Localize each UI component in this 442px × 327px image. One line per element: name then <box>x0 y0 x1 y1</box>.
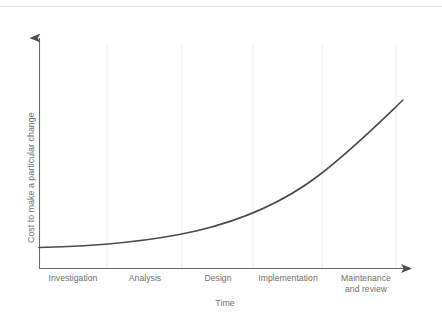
chart-figure: Investigation Analysis Design Implementa… <box>0 0 442 327</box>
y-axis-title: Cost to make a particular change <box>26 112 36 243</box>
x-category-label-maintenance-and-review: Maintenance and review <box>316 273 416 294</box>
gridlines <box>107 45 396 268</box>
x-axis-title: Time <box>175 298 275 308</box>
cost-curve <box>39 100 403 248</box>
